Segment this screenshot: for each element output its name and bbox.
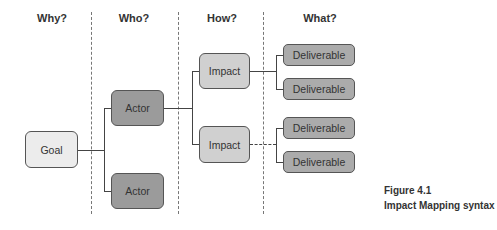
connector-deliverable-4 [276, 162, 283, 163]
goal-label: Goal [40, 144, 62, 156]
deliverable-label: Deliverable [293, 156, 346, 168]
connector-deliverables-trunk-2 [276, 128, 277, 162]
impact-node-1: Impact [199, 53, 250, 89]
figure-title: Impact Mapping syntax [384, 200, 495, 211]
connector-impact-1-out [250, 71, 276, 72]
deliverable-label: Deliverable [293, 83, 346, 95]
header-how: How? [207, 12, 237, 24]
impact-label: Impact [209, 65, 241, 77]
actor-label: Actor [125, 102, 150, 114]
figure-number: Figure 4.1 [384, 185, 431, 196]
deliverable-node-2: Deliverable [283, 78, 355, 100]
connector-deliverable-2 [276, 89, 283, 90]
column-divider-3 [263, 12, 264, 214]
deliverable-node-3: Deliverable [283, 117, 355, 139]
connector-actor-1 [104, 108, 111, 109]
connector-impact-2 [192, 144, 199, 145]
connector-goal [77, 150, 104, 151]
header-what: What? [303, 12, 337, 24]
header-who: Who? [119, 12, 150, 24]
connector-deliverables-trunk-1 [276, 55, 277, 89]
connector-actors-trunk [104, 108, 105, 191]
connector-deliverable-1 [276, 55, 283, 56]
actor-node-2: Actor [111, 173, 164, 209]
goal-node: Goal [25, 131, 78, 168]
connector-impact-1 [192, 71, 199, 72]
connector-actor-2 [104, 191, 111, 192]
deliverable-label: Deliverable [293, 49, 346, 61]
impact-node-2: Impact [199, 126, 250, 163]
actor-label: Actor [125, 185, 150, 197]
impact-label: Impact [209, 139, 241, 151]
connector-impacts-trunk [192, 71, 193, 144]
column-divider-2 [178, 12, 179, 214]
connector-impact-2-out [250, 144, 276, 145]
column-divider-1 [91, 12, 92, 214]
deliverable-node-1: Deliverable [283, 44, 355, 66]
actor-node-1: Actor [111, 90, 164, 126]
deliverable-node-4: Deliverable [283, 151, 355, 173]
header-why: Why? [37, 12, 67, 24]
connector-actor-out [164, 108, 192, 109]
deliverable-label: Deliverable [293, 122, 346, 134]
connector-deliverable-3 [276, 128, 283, 129]
